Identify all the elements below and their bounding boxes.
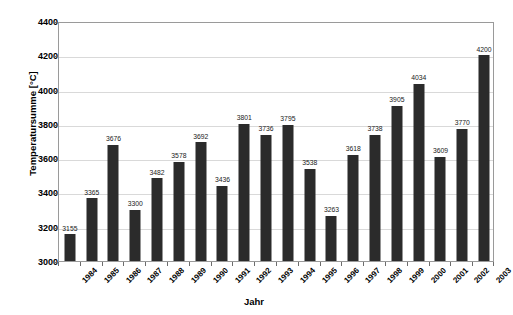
bar-value-label: 3738 [368,126,383,133]
x-tick-label: 2001 [451,266,470,285]
bar-slot: 3155 [59,23,81,261]
bar-value-label: 3482 [150,170,165,177]
y-tick-label: 4400 [6,18,58,27]
x-tick-label: 1991 [233,266,252,285]
bar[interactable] [86,198,97,261]
x-tick-label: 1985 [102,266,121,285]
bar[interactable] [304,169,315,261]
bar[interactable] [479,55,490,261]
bar-slot: 3618 [342,23,364,261]
bar-slot: 3770 [451,23,473,261]
bar[interactable] [391,106,402,261]
bar-value-label: 3905 [389,97,404,104]
bar-value-label: 4200 [477,47,492,54]
bar-value-label: 3538 [302,160,317,167]
bar-slot: 3609 [430,23,452,261]
bar-slot: 3263 [321,23,343,261]
x-tick-label: 1984 [80,266,99,285]
bar-slot: 3578 [168,23,190,261]
bar-slot: 3538 [299,23,321,261]
bar[interactable] [64,234,75,261]
bar-slot: 3482 [146,23,168,261]
bar-value-label: 3155 [62,226,77,233]
y-tick-label: 4200 [6,52,58,61]
x-tick-label: 1990 [211,266,230,285]
bar-slot: 3736 [255,23,277,261]
x-tick-label: 1988 [167,266,186,285]
bar-slot: 3801 [233,23,255,261]
bar[interactable] [261,135,272,261]
x-tick-label: 1995 [320,266,339,285]
bar[interactable] [435,157,446,261]
bar[interactable] [108,145,119,261]
bar-value-label: 3609 [433,148,448,155]
bar[interactable] [130,210,141,261]
x-tick-label: 1998 [385,266,404,285]
x-tick-label: 1986 [124,266,143,285]
x-tick-label: 1987 [146,266,165,285]
bar-value-label: 3578 [171,153,186,160]
y-axis-ticks: 30003200340036003800400042004400 [0,22,58,262]
bar-value-label: 3736 [259,126,274,133]
x-axis-title: Jahr [0,296,508,307]
bar-value-label: 3263 [324,207,339,214]
x-tick-label: 1994 [298,266,317,285]
bar-slot: 3676 [103,23,125,261]
y-tick-label: 3800 [6,120,58,129]
bar-slot: 3300 [124,23,146,261]
bar-slot: 3436 [212,23,234,261]
bar[interactable] [457,129,468,261]
bar-value-label: 3618 [346,146,361,153]
x-tick-label: 2003 [494,266,513,285]
bar-value-label: 4034 [411,75,426,82]
bar[interactable] [217,186,228,261]
bar[interactable] [282,125,293,261]
y-tick-label: 4000 [6,86,58,95]
x-tick-label: 1992 [255,266,274,285]
bar-slot: 4200 [473,23,495,261]
y-tick-label: 3600 [6,155,58,164]
bar-slot: 3692 [190,23,212,261]
bar-value-label: 3692 [193,134,208,141]
bar-slot: 4034 [408,23,430,261]
x-axis-tick-labels: 1984198519861987198819891990199119921993… [58,266,494,298]
x-tick-label: 2002 [473,266,492,285]
bar-slot: 3738 [364,23,386,261]
bar-value-label: 3770 [455,120,470,127]
bar-value-label: 3436 [215,177,230,184]
bar-value-label: 3676 [106,136,121,143]
bar[interactable] [370,135,381,262]
plot-area: 3155336536763300348235783692343638013736… [58,22,494,262]
x-tick-label: 1996 [342,266,361,285]
bar[interactable] [348,155,359,261]
y-tick-label: 3400 [6,189,58,198]
y-tick-label: 3200 [6,223,58,232]
x-tick-label: 2000 [429,266,448,285]
x-tick-label: 1997 [364,266,383,285]
x-tick-label: 1989 [189,266,208,285]
x-tick-label: 1993 [276,266,295,285]
bar[interactable] [173,162,184,261]
bar-value-label: 3365 [84,190,99,197]
bar-slot: 3905 [386,23,408,261]
y-tick-label: 3000 [6,258,58,267]
bar[interactable] [195,142,206,261]
x-tick-label: 1999 [407,266,426,285]
bar[interactable] [152,178,163,261]
bar-value-label: 3801 [237,115,252,122]
bar-value-label: 3300 [128,201,143,208]
bar[interactable] [239,124,250,261]
bar[interactable] [413,84,424,261]
bar-value-label: 3795 [280,116,295,123]
bar-slot: 3795 [277,23,299,261]
bar[interactable] [326,216,337,261]
bar-slot: 3365 [81,23,103,261]
